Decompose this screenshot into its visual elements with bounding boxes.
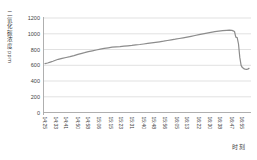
y-tick-label-1000: 1000	[28, 31, 40, 37]
x-tick-label: 15:15	[108, 117, 114, 130]
x-tick-label: 14:33	[53, 117, 59, 130]
y-tick-label-0: 0	[37, 110, 40, 116]
x-tick-label: 16:30	[207, 117, 213, 130]
chart-canvas: 02004006008001000120014:2514:3314:4114:5…	[0, 0, 257, 160]
x-tick-label: 15:31	[129, 117, 135, 130]
y-tick-label-200: 200	[31, 94, 40, 100]
x-tick-label: 16:22	[196, 117, 202, 130]
x-tick-label: 15:40	[141, 117, 147, 130]
x-axis-title: 时刻	[232, 142, 246, 151]
x-tick-label: 15:56	[162, 117, 168, 130]
x-tick-label: 16:13	[184, 117, 190, 130]
x-tick-label: 16:55	[239, 117, 245, 130]
y-tick-label-1200: 1200	[28, 15, 40, 21]
x-tick-label: 16:38	[217, 117, 223, 130]
x-tick-label: 14:50	[75, 117, 81, 130]
x-tick-label: 15:48	[151, 117, 157, 130]
x-tick-label: 14:58	[85, 117, 91, 130]
x-tick-label: 16:47	[229, 117, 235, 130]
x-tick-label: 14:25	[42, 117, 48, 130]
y-axis-title: 二氧化碳浓度 ppm	[6, 10, 14, 82]
y-tick-label-600: 600	[31, 62, 40, 68]
y-tick-label-800: 800	[31, 47, 40, 53]
x-tick-label: 14:41	[63, 117, 69, 130]
y-tick-label-400: 400	[31, 78, 40, 84]
co2-line-chart: 02004006008001000120014:2514:3314:4114:5…	[0, 0, 257, 160]
x-tick-label: 15:23	[118, 117, 124, 130]
x-tick-label: 16:05	[174, 117, 180, 130]
x-tick-label: 15:06	[96, 117, 102, 130]
